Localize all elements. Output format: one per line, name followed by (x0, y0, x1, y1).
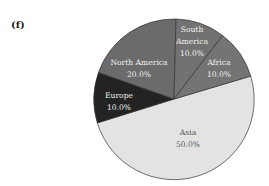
pie-chart: South America 10.0% Africa 10.0% North A… (0, 0, 269, 186)
label-asia-pct: 50.0% (176, 140, 200, 149)
label-south-america-pct: 10.0% (180, 49, 204, 58)
label-africa: Africa (207, 58, 231, 67)
label-europe-pct: 10.0% (107, 103, 131, 112)
label-europe: Europe (105, 91, 133, 100)
label-africa-pct: 10.0% (207, 70, 231, 79)
label-south-america-2: America (175, 37, 208, 46)
label-south-america-1: South (181, 25, 204, 34)
label-north-america: North America (110, 58, 168, 67)
label-north-america-pct: 20.0% (127, 70, 151, 79)
label-asia: Asia (179, 128, 197, 137)
